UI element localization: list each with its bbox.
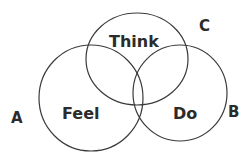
circle-think [86,13,188,105]
circle-feel [39,45,143,151]
venn-diagram: Think Feel Do A B C [0,0,250,158]
label-c: C [199,17,210,35]
label-do: Do [173,104,197,123]
label-think: Think [109,32,159,51]
circle-do [133,45,227,141]
label-feel: Feel [62,104,99,123]
label-b: B [228,103,239,121]
label-a: A [11,109,23,127]
